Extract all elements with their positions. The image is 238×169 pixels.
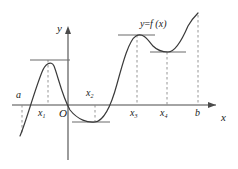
graph-canvas	[0, 0, 238, 169]
function-curve	[20, 13, 198, 136]
function-label-fx: f (x)	[150, 18, 166, 29]
point-label-a: a	[16, 90, 21, 100]
y-axis-arrowhead	[65, 26, 71, 34]
x-axis-label: x	[221, 112, 226, 123]
point-label-x3: x3	[130, 108, 137, 118]
function-graph-figure: x y O a b x1 x2 x3 x4 y=f (x)	[0, 0, 238, 169]
function-equation-label: y=f (x)	[140, 19, 166, 29]
x-axis-arrowhead	[208, 102, 216, 108]
y-axis-label: y	[57, 23, 62, 34]
point-label-x2: x2	[86, 88, 93, 98]
origin-label: O	[59, 108, 67, 119]
point-label-x1: x1	[38, 108, 45, 118]
dashed-guide-lines	[22, 15, 198, 134]
point-label-b: b	[195, 108, 200, 118]
point-label-x4: x4	[160, 108, 167, 118]
y-axis	[65, 26, 71, 160]
